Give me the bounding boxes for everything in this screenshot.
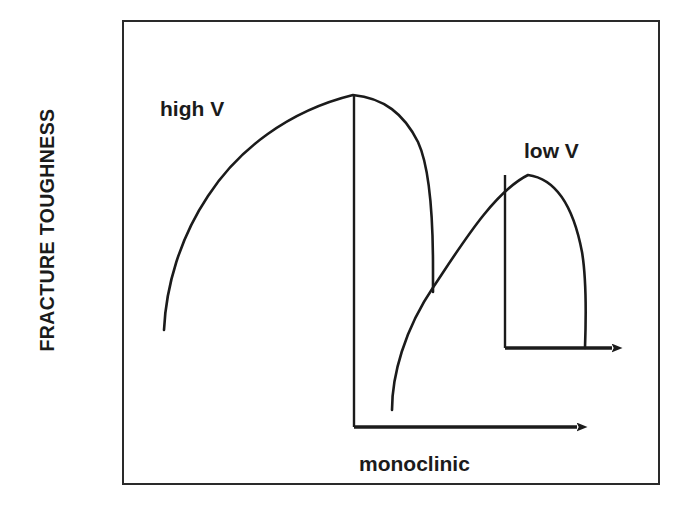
fracture-toughness-figure: FRACTURE TOUGHNESS high V low V monoclin… (0, 0, 688, 520)
annotation-low-v: low V (524, 139, 579, 163)
annotation-monoclinic: monoclinic (359, 452, 470, 476)
annotation-high-v: high V (160, 97, 224, 121)
y-axis-label: FRACTURE TOUGHNESS (36, 132, 59, 352)
curves-layer (122, 20, 660, 485)
curve-low-v (392, 175, 586, 410)
curve-high-v (164, 95, 433, 330)
